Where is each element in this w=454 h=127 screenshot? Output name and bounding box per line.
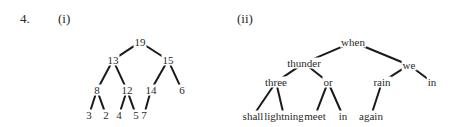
tree-edge	[99, 96, 104, 110]
tree-node: in	[338, 111, 349, 122]
tree-edge	[317, 88, 326, 111]
tree-node: 2	[102, 110, 110, 121]
tree-edge	[154, 65, 165, 85]
tree-node: meet	[303, 111, 326, 122]
tree-edge	[330, 87, 340, 110]
tree-node: thunder	[286, 58, 322, 69]
tree-node: or	[322, 77, 333, 88]
tree-node: 12	[121, 85, 134, 96]
tree-node: 13	[107, 55, 120, 66]
tree-node: 6	[178, 85, 186, 96]
tree-node: three	[264, 77, 288, 88]
tree-node: 4	[115, 110, 123, 121]
tree-edge	[145, 45, 163, 57]
tree-node: lightning	[263, 111, 305, 122]
tree-node: shall	[242, 111, 265, 122]
tree-edge	[146, 96, 150, 109]
tree-node: 7	[140, 110, 148, 121]
tree-edge	[100, 65, 110, 84]
tree-edge	[118, 45, 135, 56]
tree-edge	[91, 96, 95, 110]
tree-node: in	[427, 77, 438, 88]
tree-edge	[256, 87, 272, 111]
tree-node: when	[340, 37, 366, 48]
tree-edges	[0, 0, 454, 127]
tree-node: 15	[162, 55, 175, 66]
tree-edge	[373, 88, 380, 111]
tree-edge	[277, 88, 282, 110]
tree-node: again	[358, 111, 384, 122]
tree-node: 19	[134, 37, 147, 48]
tree-node: 3	[85, 110, 93, 121]
tree-edge	[116, 65, 125, 84]
tree-node: rain	[372, 77, 391, 88]
tree-edge	[121, 96, 125, 110]
tree-node: 14	[145, 85, 158, 96]
tree-edge	[171, 65, 180, 84]
tree-node: 5	[132, 110, 140, 121]
tree-node: we	[402, 60, 417, 71]
tree-edge	[129, 96, 134, 110]
tree-node: 8	[93, 85, 101, 96]
